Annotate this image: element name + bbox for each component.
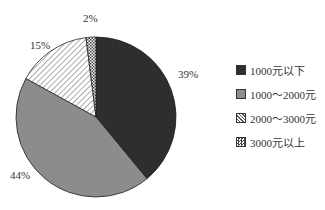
slice-label-1000-below: 39%	[178, 68, 198, 80]
slice-label-3000-above: 2%	[83, 12, 98, 24]
swatch-gray-icon	[236, 89, 246, 99]
legend-label: 3000元以上	[250, 134, 305, 150]
legend-item-2000-3000: 2000～3000元	[236, 106, 316, 130]
slice-label-1000-2000: 44%	[10, 169, 30, 181]
swatch-crosshatch-icon	[236, 137, 246, 147]
legend: 1000元以下 1000～2000元 2000～3000元 3000元以上	[236, 58, 316, 154]
legend-label: 1000元以下	[250, 62, 305, 78]
slice-label-2000-3000: 15%	[30, 39, 50, 51]
legend-item-3000-above: 3000元以上	[236, 130, 316, 154]
legend-item-1000-2000: 1000～2000元	[236, 82, 316, 106]
legend-label: 1000～2000元	[250, 86, 316, 102]
swatch-hatch-icon	[236, 113, 246, 123]
swatch-dark-icon	[236, 65, 246, 75]
legend-label: 2000～3000元	[250, 110, 316, 126]
legend-item-1000-below: 1000元以下	[236, 58, 316, 82]
